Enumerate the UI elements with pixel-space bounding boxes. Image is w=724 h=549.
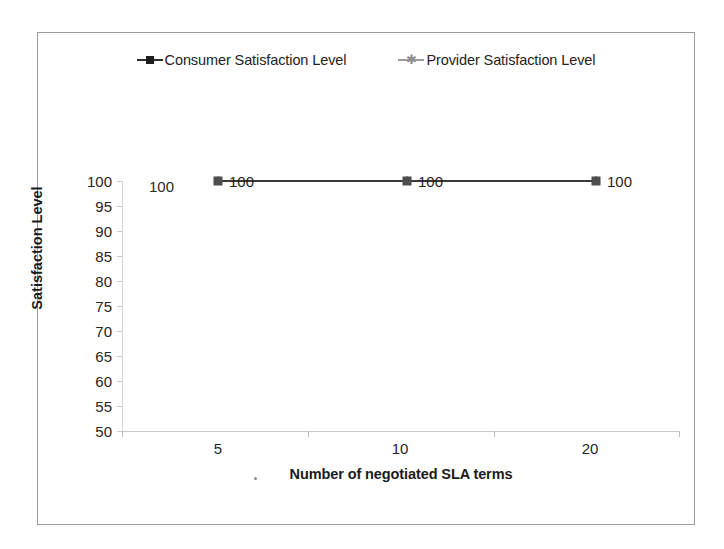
chart-container: Consumer Satisfaction Level ✱ Provider S… [0,0,724,549]
y-axis-title: Satisfaction Level [29,168,45,328]
x-axis-title: Number of negotiated SLA terms [122,466,680,482]
x-axis-tick [308,431,309,437]
y-axis-label: 55 [78,398,112,415]
scan-artifact-dot [254,477,257,480]
x-axis-tick [122,431,123,437]
data-label-point-3: 100 [607,173,632,190]
x-axis-tick [494,431,495,437]
legend-entry-consumer[interactable]: Consumer Satisfaction Level [137,52,347,68]
y-axis-label: 50 [78,423,112,440]
x-axis-label: 10 [392,440,409,457]
y-axis-label: 85 [78,248,112,265]
square-marker-icon [137,53,163,67]
y-axis-label: 70 [78,323,112,340]
x-axis-label: 20 [582,440,599,457]
legend-label-provider: Provider Satisfaction Level [426,52,595,68]
x-axis-line [122,431,680,432]
y-axis-label: 65 [78,348,112,365]
data-label-point-2: 100 [418,173,443,190]
plot-area: ✱ ✱ ✱ 100 100 100 100 [122,181,680,431]
chart-legend: Consumer Satisfaction Level ✱ Provider S… [37,44,695,76]
legend-entry-provider[interactable]: ✱ Provider Satisfaction Level [398,52,595,68]
y-axis-label: 95 [78,198,112,215]
data-label-point-1: 100 [229,173,254,190]
data-point-marker-consumer[interactable] [214,177,223,186]
x-axis-label: 5 [214,440,222,457]
star-marker-icon: ✱ [398,53,424,67]
legend-label-consumer: Consumer Satisfaction Level [165,52,347,68]
data-point-marker-consumer[interactable] [592,177,601,186]
data-point-marker-consumer[interactable] [403,177,412,186]
data-label-offset: 100 [149,178,174,195]
y-axis-label: 90 [78,223,112,240]
y-axis-label: 80 [78,273,112,290]
y-axis-tick-labels: 100 95 90 85 80 75 70 65 60 55 50 [78,181,112,432]
y-axis-label: 75 [78,298,112,315]
x-axis-tick [679,431,680,437]
y-axis-label: 100 [78,173,112,190]
y-axis-label: 60 [78,373,112,390]
